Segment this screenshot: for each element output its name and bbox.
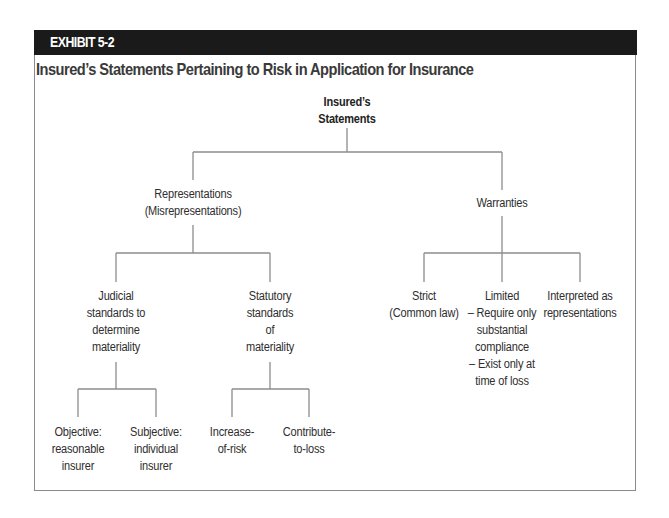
- node-line: standards: [246, 305, 294, 322]
- node-line: reasonable: [52, 441, 105, 458]
- node-line: Judicial: [87, 288, 145, 305]
- node-subjective: Subjective: individual insurer: [130, 424, 182, 475]
- node-line: Insured’s: [318, 94, 376, 111]
- node-line: Strict: [389, 288, 458, 305]
- node-line: Subjective:: [130, 424, 182, 441]
- node-line: materiality: [246, 339, 294, 356]
- node-insureds-statements: Insured’s Statements: [318, 94, 376, 128]
- node-strict: Strict (Common law): [389, 288, 458, 322]
- node-line: standards to: [87, 305, 145, 322]
- node-line: individual: [130, 441, 182, 458]
- node-line: materiality: [87, 339, 145, 356]
- node-line: Representations: [145, 186, 242, 203]
- node-line: insurer: [52, 458, 105, 475]
- node-line: (Common law): [389, 305, 458, 322]
- node-line: insurer: [130, 458, 182, 475]
- node-line: representations: [543, 305, 616, 322]
- node-representations: Representations (Misrepresentations): [145, 186, 242, 220]
- node-line: compliance: [468, 339, 536, 356]
- node-line: Objective:: [52, 424, 105, 441]
- node-increase-of-risk: Increase- of-risk: [210, 424, 254, 458]
- node-contribute-to-loss: Contribute- to-loss: [283, 424, 335, 458]
- node-limited: Limited – Require only substantial compl…: [468, 288, 536, 390]
- node-line: Interpreted as: [543, 288, 616, 305]
- node-line: Statutory: [246, 288, 294, 305]
- node-line: Contribute-: [283, 424, 335, 441]
- node-interpreted-as-representations: Interpreted as representations: [543, 288, 616, 322]
- node-line: Warranties: [476, 195, 527, 212]
- node-line: time of loss: [468, 373, 536, 390]
- node-line: Limited: [468, 288, 536, 305]
- node-line: of: [246, 322, 294, 339]
- node-objective: Objective: reasonable insurer: [52, 424, 105, 475]
- node-statutory-standards: Statutory standards of materiality: [246, 288, 294, 356]
- node-line: determine: [87, 322, 145, 339]
- node-line: Increase-: [210, 424, 254, 441]
- node-line: – Exist only at: [468, 356, 536, 373]
- node-line: substantial: [468, 322, 536, 339]
- node-judicial-standards: Judicial standards to determine material…: [87, 288, 145, 356]
- node-line: – Require only: [468, 305, 536, 322]
- node-warranties: Warranties: [476, 195, 527, 212]
- node-line: of-risk: [210, 441, 254, 458]
- node-line: Statements: [318, 111, 376, 128]
- node-line: to-loss: [283, 441, 335, 458]
- node-line: (Misrepresentations): [145, 203, 242, 220]
